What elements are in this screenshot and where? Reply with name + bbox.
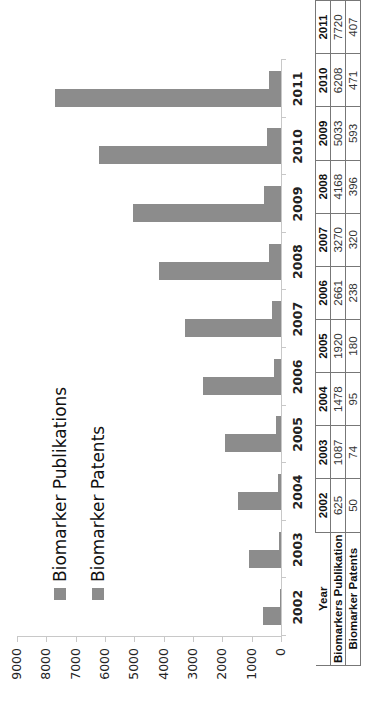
- table-row: Biomarker Patents50749518023832039659347…: [346, 1, 361, 666]
- y-tick-mark: [281, 636, 282, 642]
- table-value-cell: 1920: [331, 319, 346, 372]
- table-value-cell: 180: [346, 319, 361, 372]
- y-tick-mark: [222, 636, 223, 642]
- bar-publikations: [238, 492, 281, 510]
- y-tick-label: 2000: [214, 648, 229, 692]
- y-tick-label: 5000: [126, 648, 141, 692]
- data-table: Year200220032004200520062007200820092010…: [315, 0, 361, 666]
- table-value-cell: 4168: [331, 160, 346, 213]
- table-value-cell: 2661: [331, 266, 346, 319]
- category-label: 2002: [290, 581, 305, 633]
- table-row-label: Biomarker Patents: [346, 532, 361, 665]
- x-tick-mark: [281, 232, 286, 233]
- bar-publikations: [159, 262, 281, 280]
- bar-patents: [272, 301, 281, 319]
- table-value-cell: 1087: [331, 426, 346, 479]
- x-tick-mark: [281, 520, 286, 521]
- table-year-cell: 2010: [316, 54, 331, 107]
- bar-patents: [267, 128, 281, 146]
- y-tick-mark: [105, 636, 106, 642]
- bar-publikations: [133, 204, 281, 222]
- table-header-row: Year200220032004200520062007200820092010…: [316, 1, 331, 666]
- bar-publikations: [203, 377, 281, 395]
- legend-swatch-icon: [54, 588, 66, 600]
- bar-patents: [274, 359, 281, 377]
- y-tick-mark: [252, 636, 253, 642]
- y-tick-mark: [134, 636, 135, 642]
- table-value-cell: 6208: [331, 54, 346, 107]
- bar-patents: [264, 186, 281, 204]
- legend-item-patents: Biomarker Patents: [88, 426, 108, 600]
- table-year-cell: 2008: [316, 160, 331, 213]
- category-axis-line: [281, 60, 282, 636]
- y-tick-label: 9000: [9, 648, 24, 692]
- y-tick-label: 1000: [244, 648, 259, 692]
- table-value-cell: 50: [346, 479, 361, 532]
- legend-swatch-icon: [92, 588, 104, 600]
- y-tick-label: 7000: [68, 648, 83, 692]
- table-year-cell: 2003: [316, 426, 331, 479]
- category-label: 2009: [290, 178, 305, 230]
- table-value-cell: 7720: [331, 1, 346, 54]
- category-label: 2004: [290, 466, 305, 518]
- y-tick-mark: [164, 636, 165, 642]
- bar-patents: [276, 416, 281, 434]
- bar-publikations: [263, 607, 281, 625]
- y-tick-label: 0: [273, 648, 288, 692]
- x-tick-mark: [281, 174, 286, 175]
- table-value-cell: 625: [331, 479, 346, 532]
- table-value-cell: 95: [346, 373, 361, 426]
- category-label: 2005: [290, 408, 305, 460]
- bar-publikations: [99, 146, 281, 164]
- table-year-cell: 2007: [316, 213, 331, 266]
- bar-patents: [279, 532, 281, 550]
- table-value-cell: 593: [346, 107, 361, 160]
- legend-label: Biomarker Patents: [88, 426, 108, 582]
- x-tick-mark: [281, 347, 286, 348]
- category-label: 2011: [290, 63, 305, 115]
- value-axis-line: [17, 636, 281, 637]
- y-tick-mark: [193, 636, 194, 642]
- table-header-cell: Year: [316, 532, 331, 665]
- y-tick-mark: [17, 636, 18, 642]
- y-tick-label: 4000: [156, 648, 171, 692]
- x-tick-mark: [281, 59, 286, 60]
- table-value-cell: 238: [346, 266, 361, 319]
- category-label: 2008: [290, 236, 305, 288]
- table-value-cell: 1478: [331, 373, 346, 426]
- category-label: 2006: [290, 351, 305, 403]
- y-tick-label: 6000: [97, 648, 112, 692]
- table-row-label: Biomarkers Publikation: [331, 532, 346, 665]
- y-tick-label: 8000: [38, 648, 53, 692]
- x-tick-mark: [281, 577, 286, 578]
- category-label: 2003: [290, 524, 305, 576]
- y-tick-mark: [76, 636, 77, 642]
- table-value-cell: 5033: [331, 107, 346, 160]
- bar-publikations: [55, 89, 281, 107]
- table-year-cell: 2002: [316, 479, 331, 532]
- table-value-cell: 320: [346, 213, 361, 266]
- table-row: Biomarkers Publikation625108714781920266…: [331, 1, 346, 666]
- bar-patents: [278, 474, 281, 492]
- bar-publikations: [249, 550, 281, 568]
- table-year-cell: 2009: [316, 107, 331, 160]
- y-tick-mark: [46, 636, 47, 642]
- legend-label: Biomarker Publikations: [50, 387, 70, 582]
- table-value-cell: 74: [346, 426, 361, 479]
- bar-publikations: [185, 319, 281, 337]
- table-year-cell: 2004: [316, 373, 331, 426]
- table-value-cell: 471: [346, 54, 361, 107]
- table-year-cell: 2006: [316, 266, 331, 319]
- table-value-cell: 407: [346, 1, 361, 54]
- x-tick-mark: [281, 405, 286, 406]
- legend-item-publikations: Biomarker Publikations: [50, 387, 70, 600]
- category-label: 2010: [290, 120, 305, 172]
- bar-patents: [269, 71, 281, 89]
- table-value-cell: 396: [346, 160, 361, 213]
- x-tick-mark: [281, 462, 286, 463]
- x-tick-mark: [281, 289, 286, 290]
- table-year-cell: 2011: [316, 1, 331, 54]
- rotated-chart-canvas: 0100020003000400050006000700080009000200…: [0, 0, 381, 711]
- bar-patents: [280, 589, 281, 607]
- table-year-cell: 2005: [316, 319, 331, 372]
